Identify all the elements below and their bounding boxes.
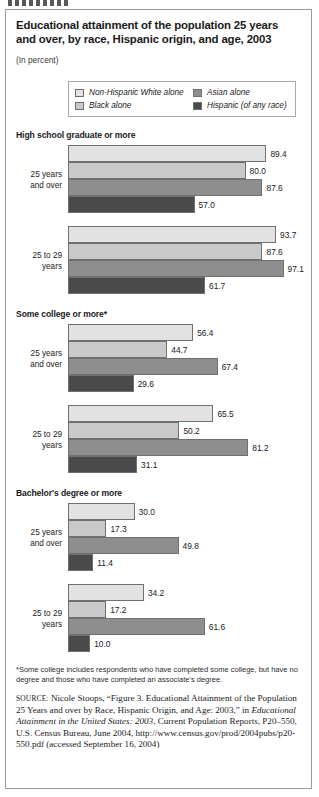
bar-value-label: 67.4 [222,362,238,372]
bar-row: 65.5 [68,405,301,422]
figure-title: Educational attainment of the population… [16,19,301,46]
bar [68,503,135,520]
bar [68,277,205,294]
bar-row: 57.0 [68,196,301,213]
bar [68,196,195,213]
chart-panel: Some college or more*25 yearsand over56.… [16,309,301,475]
bar-row: 87.6 [68,243,301,260]
bar-row: 31.1 [68,456,301,473]
bar-row: 61.7 [68,277,301,294]
bar-row: 49.8 [68,537,301,554]
bar-row: 61.6 [68,618,301,635]
bar-row: 97.1 [68,260,301,277]
bar [68,179,262,196]
bar [68,537,179,554]
bar-value-label: 61.7 [209,281,225,291]
bar-value-label: 30.0 [139,507,155,517]
bar-row: 89.4 [68,145,301,162]
bar [68,358,218,375]
legend-item-black-alone: Black alone [75,101,193,110]
source-label: SOURCE: [16,694,49,703]
bar [68,422,179,439]
page-header-crop [8,0,68,6]
bar [68,635,90,652]
legend-label: Hispanic (of any race) [207,101,287,110]
bar-value-label: 56.4 [197,328,213,338]
legend-label: Black alone [89,101,131,110]
bar-track: 89.480.087.657.0 [68,145,301,215]
bar-row: 67.4 [68,358,301,375]
chart-footnote: *Some college includes respondents who h… [16,665,301,684]
bar-value-label: 57.0 [199,200,215,210]
bar-value-label: 80.0 [250,166,266,176]
legend-item-non-hispanic-white-alone: Non-Hispanic White alone [75,88,193,97]
bar-value-label: 10.0 [94,639,110,649]
bar [68,162,246,179]
bar-group-label: 25 yearsand over [16,528,62,549]
bar-value-label: 89.4 [270,149,286,159]
chart-panels: High school graduate or more25 yearsand … [16,130,301,654]
legend-label: Asian alone [207,88,250,97]
bar-value-label: 87.6 [266,247,282,257]
bar-track: 30.017.349.811.4 [68,503,301,573]
chart-source: SOURCE: Nicole Stoops, “Figure 3. Educat… [16,693,301,750]
bar [68,554,93,571]
bar [68,226,276,243]
panel-title: Some college or more* [16,309,301,319]
bar [68,618,205,635]
bar-value-label: 11.4 [97,558,113,568]
chart-panel: Bachelor's degree or more25 yearsand ove… [16,488,301,654]
bar-value-label: 97.1 [288,264,304,274]
bar-value-label: 93.7 [280,230,296,240]
figure-frame: Educational attainment of the population… [5,9,312,789]
bar-row: 81.2 [68,439,301,456]
legend-swatch-icon [193,102,202,110]
bar [68,405,213,422]
bar-row: 11.4 [68,554,301,571]
bar-track: 56.444.767.429.6 [68,324,301,394]
bar-value-label: 49.8 [183,541,199,551]
bar-group: 25 yearsand over56.444.767.429.6 [16,324,301,394]
figure-subtitle: (In percent) [16,55,301,65]
bar-value-label: 17.3 [110,524,126,534]
bar-value-label: 65.5 [217,409,233,419]
bar-row: 44.7 [68,341,301,358]
bar-row: 10.0 [68,635,301,652]
chart-legend: Non-Hispanic White alone Asian alone Bla… [68,81,296,117]
bar-group-label: 25 to 29years [16,609,62,630]
bar [68,324,193,341]
bar [68,375,134,392]
bar-group-label: 25 yearsand over [16,349,62,370]
bar-row: 34.2 [68,584,301,601]
legend-item-hispanic-of-any-race: Hispanic (of any race) [193,101,290,110]
bar-row: 17.3 [68,520,301,537]
bar-row: 80.0 [68,162,301,179]
bar-row: 56.4 [68,324,301,341]
bar-value-label: 81.2 [252,443,268,453]
chart-panel: High school graduate or more25 yearsand … [16,130,301,296]
bar-group: 25 yearsand over30.017.349.811.4 [16,503,301,573]
bar-value-label: 31.1 [141,460,157,470]
bar-track: 93.787.697.161.7 [68,226,301,296]
bar-group: 25 to 29years34.217.261.610.0 [16,584,301,654]
bar-value-label: 17.2 [110,605,126,615]
panel-title: Bachelor's degree or more [16,488,301,498]
bar [68,439,248,456]
bar [68,145,266,162]
legend-item-asian-alone: Asian alone [193,88,290,97]
bar-track: 65.550.281.231.1 [68,405,301,475]
bar [68,456,137,473]
bar [68,260,284,277]
legend-label: Non-Hispanic White alone [89,88,184,97]
bar-group: 25 to 29years93.787.697.161.7 [16,226,301,296]
bar-group-label: 25 to 29years [16,251,62,272]
bar [68,601,106,618]
bar-track: 34.217.261.610.0 [68,584,301,654]
bar-group-label: 25 to 29years [16,430,62,451]
bar-group: 25 yearsand over89.480.087.657.0 [16,145,301,215]
bar [68,243,262,260]
bar-row: 29.6 [68,375,301,392]
bar-value-label: 34.2 [148,588,164,598]
bar [68,341,167,358]
bar-row: 30.0 [68,503,301,520]
